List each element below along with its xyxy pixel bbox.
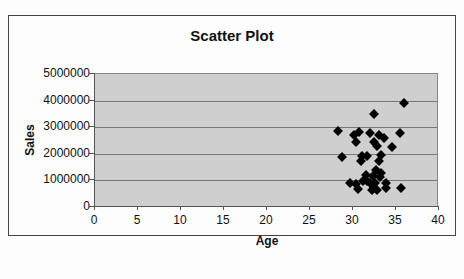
- x-tick-label: 15: [216, 213, 229, 227]
- x-tick-mark: [223, 206, 224, 210]
- x-tick-label: 20: [259, 213, 272, 227]
- x-tick-mark: [438, 206, 439, 210]
- y-tick-label: 4000000: [43, 93, 90, 107]
- y-axis-label: Sales: [23, 124, 37, 155]
- x-tick-mark: [395, 206, 396, 210]
- chart-title: Scatter Plot: [0, 27, 464, 44]
- y-tick-label: 3000000: [43, 119, 90, 133]
- y-tick-label: 5000000: [43, 66, 90, 80]
- x-tick-label: 40: [431, 213, 444, 227]
- x-tick-label: 10: [173, 213, 186, 227]
- y-tick-label: 1000000: [43, 172, 90, 186]
- x-tick-mark: [137, 206, 138, 210]
- x-tick-label: 25: [302, 213, 315, 227]
- y-tick-mark: [89, 73, 94, 74]
- x-tick-label: 0: [91, 213, 98, 227]
- x-tick-label: 35: [388, 213, 401, 227]
- y-tick-mark: [89, 100, 94, 101]
- x-tick-label: 5: [134, 213, 141, 227]
- y-tick-label: 2000000: [43, 146, 90, 160]
- x-tick-mark: [266, 206, 267, 210]
- y-axis-line: [94, 73, 95, 207]
- x-tick-label: 30: [345, 213, 358, 227]
- y-tick-mark: [89, 153, 94, 154]
- gridline: [94, 127, 437, 128]
- x-tick-mark: [94, 206, 95, 210]
- x-axis-label: Age: [0, 234, 464, 248]
- gridline: [94, 101, 437, 102]
- x-tick-mark: [352, 206, 353, 210]
- x-tick-mark: [309, 206, 310, 210]
- x-tick-mark: [180, 206, 181, 210]
- y-tick-mark: [89, 179, 94, 180]
- y-tick-mark: [89, 126, 94, 127]
